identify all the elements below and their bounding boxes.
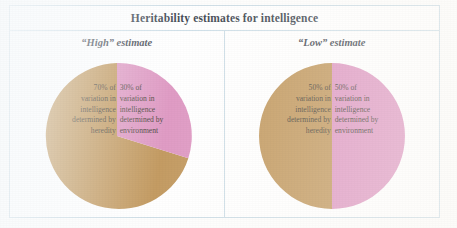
panels-container: “High” estimate 70% of variat [10, 31, 439, 217]
pie-label-line: variation in [120, 94, 164, 105]
figure-frame: Heritability estimates for intelligence … [9, 5, 440, 218]
pie-label-line: intelligence [72, 105, 116, 116]
pie-label-line: determined by [287, 115, 331, 126]
heritability-figure: Heritability estimates for intelligence … [0, 0, 457, 228]
pie-label-line: determined by [335, 115, 379, 126]
panel-low-estimate: “Low” estimate 50% of variati [225, 31, 440, 217]
pie-label-environment-high: 30% of variation in intelligence determi… [120, 83, 164, 137]
pie-label-line: environment [120, 126, 164, 137]
pie-label-line: environment [335, 126, 379, 137]
pie-label-line: variation in [287, 94, 331, 105]
pie-label-line: determined by [120, 115, 164, 126]
figure-title: Heritability estimates for intelligence [131, 12, 318, 24]
panel-low-subtitle: “Low” estimate [225, 37, 440, 48]
pie-label-line: 50% of [287, 83, 331, 94]
pie-label-line: variation in [72, 94, 116, 105]
pie-label-line: variation in [335, 94, 379, 105]
pie-label-line: 30% of [120, 83, 164, 94]
pie-label-line: intelligence [120, 105, 164, 116]
pie-label-line: 70% of [72, 83, 116, 94]
pie-labels-high: 70% of variation in intelligence determi… [42, 61, 192, 211]
pie-label-line: intelligence [287, 105, 331, 116]
pie-label-environment-low: 50% of variation in intelligence determi… [335, 83, 379, 137]
pie-label-heredity-low: 50% of variation in intelligence determi… [287, 83, 331, 137]
panel-high-subtitle: “High” estimate [10, 37, 224, 48]
panel-high-estimate: “High” estimate 70% of variat [10, 31, 225, 217]
pie-label-line: intelligence [335, 105, 379, 116]
pie-label-line: heredity [287, 126, 331, 137]
pie-chart-low: 50% of variation in intelligence determi… [257, 61, 407, 211]
pie-chart-high: 70% of variation in intelligence determi… [42, 61, 192, 211]
pie-label-line: heredity [72, 126, 116, 137]
pie-label-line: 50% of [335, 83, 379, 94]
pie-label-line: determined by [72, 115, 116, 126]
pie-label-heredity-high: 70% of variation in intelligence determi… [72, 83, 116, 137]
figure-title-band: Heritability estimates for intelligence [10, 6, 439, 31]
pie-labels-low: 50% of variation in intelligence determi… [257, 61, 407, 211]
